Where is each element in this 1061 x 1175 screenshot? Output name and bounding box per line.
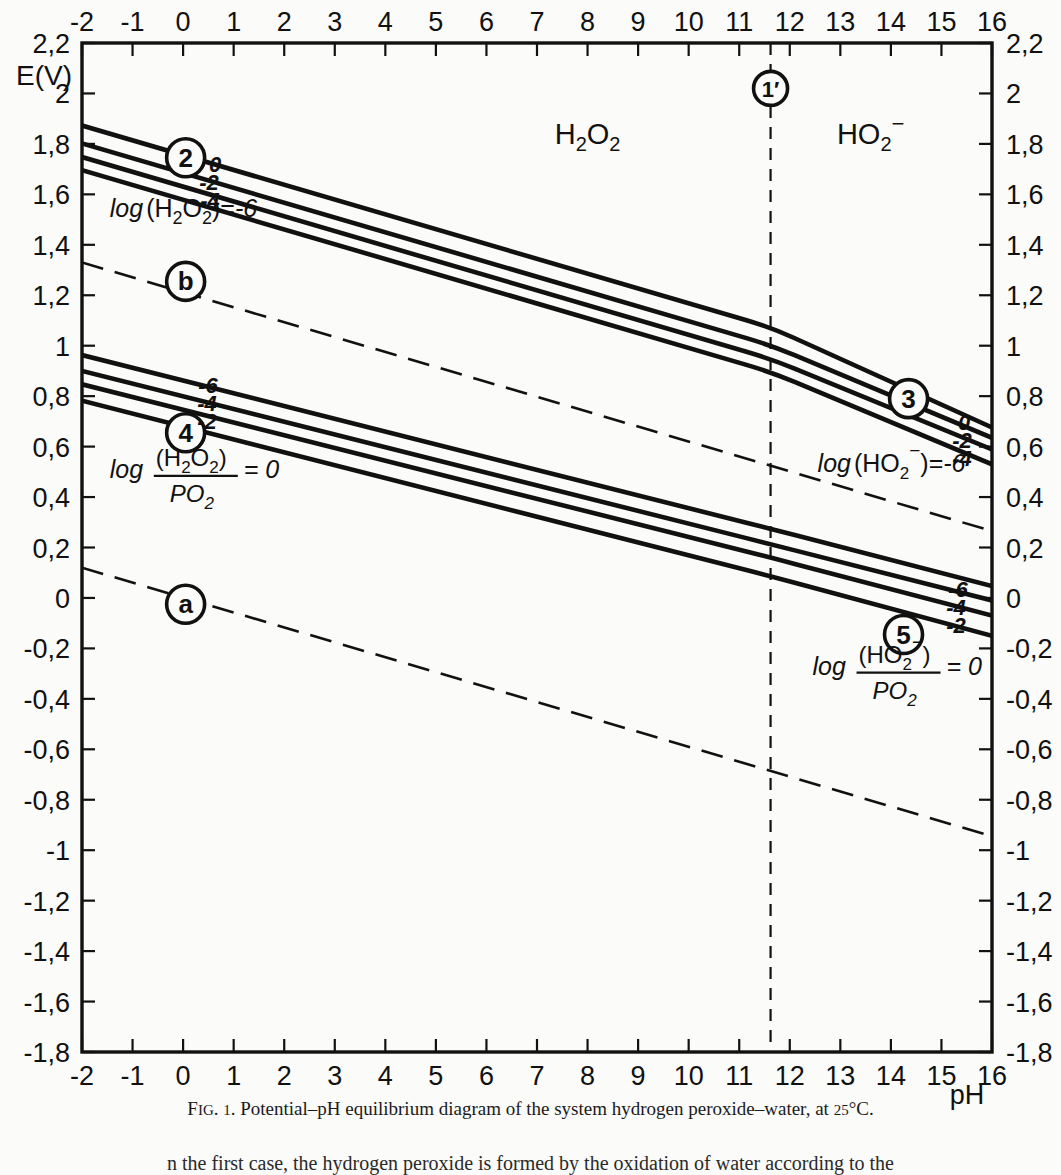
y-tick-label-left: -0,6 bbox=[23, 735, 70, 765]
pourbaix-diagram-figure: -2-1012345678910111213141516 -2-10123456… bbox=[0, 0, 1061, 1175]
y-tick-label-right: -1 bbox=[1006, 836, 1030, 866]
y-tick-label-right: 0,6 bbox=[1006, 433, 1044, 463]
y-tick-label-left: 1 bbox=[55, 332, 70, 362]
y-tick-label-right: 1 bbox=[1006, 332, 1021, 362]
body-text-line: n the first case, the hydrogen peroxide … bbox=[0, 1152, 1061, 1175]
x-tick-label-bottom: 10 bbox=[674, 1061, 704, 1091]
marker-label: 1′ bbox=[762, 77, 780, 102]
x-tick-label-top: 3 bbox=[327, 7, 342, 37]
y-tick-label-left: 1,8 bbox=[32, 130, 70, 160]
y-tick-label-left: 1,6 bbox=[32, 180, 70, 210]
y-tick-label-right: 0,4 bbox=[1006, 483, 1044, 513]
y-tick-label-right: 1,2 bbox=[1006, 281, 1044, 311]
y-tick-label-right: -1,4 bbox=[1006, 937, 1053, 967]
marker-3: 3 bbox=[890, 380, 928, 418]
marker-label: 3 bbox=[901, 384, 915, 414]
x-tick-label-bottom: 14 bbox=[876, 1061, 906, 1091]
x-tick-label-top: 1 bbox=[226, 7, 241, 37]
y-tick-label-right: -0,8 bbox=[1006, 786, 1053, 816]
marker-label: b bbox=[178, 266, 194, 296]
x-tick-label-top: 10 bbox=[674, 7, 704, 37]
y-axis-ticks-right bbox=[979, 43, 992, 1052]
marker-label: a bbox=[178, 589, 193, 619]
marker-b: b bbox=[167, 262, 205, 300]
marker-a: a bbox=[167, 585, 205, 623]
y-tick-label-left: 2,2 bbox=[32, 29, 70, 59]
ann2-eq: = 0 bbox=[244, 455, 280, 483]
y-tick-label-right: -1,6 bbox=[1006, 988, 1053, 1018]
x-tick-label-bottom: 3 bbox=[327, 1061, 342, 1091]
marker-1prime: 1′ bbox=[754, 71, 788, 105]
page-background bbox=[0, 0, 1061, 1175]
y-tick-label-right: -0,2 bbox=[1006, 634, 1053, 664]
x-tick-label-bottom: 5 bbox=[428, 1061, 443, 1091]
x-tick-label-bottom: 7 bbox=[529, 1061, 544, 1091]
y-axis-title: E(V) bbox=[16, 60, 72, 91]
x-tick-label-top: 6 bbox=[479, 7, 494, 37]
x-tick-label-bottom: 9 bbox=[631, 1061, 646, 1091]
y-tick-label-left: -1 bbox=[46, 836, 70, 866]
x-tick-label-top: 8 bbox=[580, 7, 595, 37]
x-tick-label-bottom: 2 bbox=[277, 1061, 292, 1091]
x-tick-label-top: 12 bbox=[775, 7, 805, 37]
y-tick-label-left: -0,2 bbox=[23, 634, 70, 664]
y-tick-label-right: 0 bbox=[1006, 584, 1021, 614]
y-tick-label-right: -1,8 bbox=[1006, 1038, 1053, 1068]
caption-text: FIG. 1. Potential–pH equilibrium diagram… bbox=[187, 1098, 873, 1119]
y-tick-label-right: 1,6 bbox=[1006, 180, 1044, 210]
y-tick-label-left: -0,4 bbox=[23, 685, 70, 715]
y-tick-label-left: 0,4 bbox=[32, 483, 70, 513]
x-tick-label-top: 14 bbox=[876, 7, 906, 37]
y-tick-label-left: 1,4 bbox=[32, 231, 70, 261]
x-tick-label-top: 16 bbox=[977, 7, 1007, 37]
ann4-eq: = 0 bbox=[947, 652, 983, 680]
y-tick-label-right: 2,2 bbox=[1006, 29, 1044, 59]
y-tick-label-right: 1,4 bbox=[1006, 231, 1044, 261]
x-tick-label-top: 15 bbox=[926, 7, 956, 37]
y-tick-label-left: -1,6 bbox=[23, 988, 70, 1018]
y-tick-label-right: 0,2 bbox=[1006, 534, 1044, 564]
x-tick-label-top: -2 bbox=[70, 7, 94, 37]
x-tick-label-top: 5 bbox=[428, 7, 443, 37]
y-tick-label-left: 0,6 bbox=[32, 433, 70, 463]
x-tick-label-bottom: -1 bbox=[121, 1061, 145, 1091]
y-tick-label-left: -1,8 bbox=[23, 1038, 70, 1068]
figure-caption: FIG. 1. Potential–pH equilibrium diagram… bbox=[0, 1098, 1061, 1120]
ann4-log: log bbox=[813, 652, 846, 680]
y-axis-ticks-left bbox=[82, 43, 95, 1052]
x-tick-label-bottom: 4 bbox=[378, 1061, 393, 1091]
marker-label: 2 bbox=[178, 143, 192, 173]
y-tick-label-left: -1,4 bbox=[23, 937, 70, 967]
x-tick-label-bottom: 1 bbox=[226, 1061, 241, 1091]
x-tick-label-bottom: 12 bbox=[775, 1061, 805, 1091]
y-tick-label-left: -0,8 bbox=[23, 786, 70, 816]
x-tick-label-top: 7 bbox=[529, 7, 544, 37]
y-tick-label-left: 0,8 bbox=[32, 382, 70, 412]
x-tick-label-top: 2 bbox=[277, 7, 292, 37]
y-tick-label-right: 1,8 bbox=[1006, 130, 1044, 160]
y-tick-label-left: -1,2 bbox=[23, 887, 70, 917]
x-tick-label-bottom: 13 bbox=[825, 1061, 855, 1091]
y-tick-label-right: 0,8 bbox=[1006, 382, 1044, 412]
x-tick-label-top: 9 bbox=[631, 7, 646, 37]
x-tick-label-bottom: 11 bbox=[725, 1061, 753, 1091]
x-tick-label-top: 0 bbox=[176, 7, 191, 37]
y-tick-label-left: 0 bbox=[55, 584, 70, 614]
x-tick-label-bottom: 6 bbox=[479, 1061, 494, 1091]
x-tick-label-top: 4 bbox=[378, 7, 393, 37]
y-tick-label-left: 0,2 bbox=[32, 534, 70, 564]
x-tick-label-top: 11 bbox=[725, 7, 753, 37]
line-end-label: -2 bbox=[197, 409, 217, 434]
x-tick-label-bottom: 0 bbox=[176, 1061, 191, 1091]
line-end-label: -2 bbox=[946, 613, 966, 638]
y-tick-label-right: -0,6 bbox=[1006, 735, 1053, 765]
y-tick-label-right: 2 bbox=[1006, 79, 1021, 109]
x-tick-label-bottom: -2 bbox=[70, 1061, 94, 1091]
x-tick-label-bottom: 8 bbox=[580, 1061, 595, 1091]
y-tick-label-left: 1,2 bbox=[32, 281, 70, 311]
ann2-log: log bbox=[110, 455, 143, 483]
x-tick-label-top: 13 bbox=[825, 7, 855, 37]
x-tick-label-top: -1 bbox=[121, 7, 145, 37]
y-tick-label-right: -1,2 bbox=[1006, 887, 1053, 917]
y-tick-label-right: -0,4 bbox=[1006, 685, 1053, 715]
